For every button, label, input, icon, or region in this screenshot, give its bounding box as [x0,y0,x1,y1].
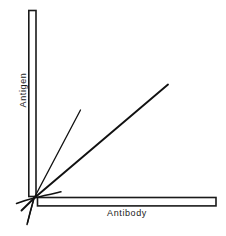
x-axis-label: Antibody [92,208,162,218]
figure-canvas [0,0,226,236]
main-diagonal-line [22,85,169,211]
y-axis-bar [29,11,36,197]
x-axis-bar [38,198,217,206]
antigen-antibody-figure: Antigen Antibody [0,0,226,236]
y-axis-label: Antigen [18,60,28,120]
